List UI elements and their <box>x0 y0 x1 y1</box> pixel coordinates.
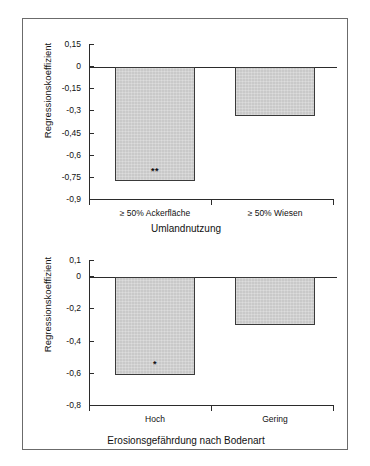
x-tick-label-top-1: ≥ 50% Wiesen <box>248 208 303 218</box>
y-tick-label: 0 <box>76 270 81 283</box>
figure-root: Regressionskoeffizient 0,15 0 -0,15 <box>0 0 370 466</box>
y-tick-mark <box>89 88 94 89</box>
chart-panel-top: Regressionskoeffizient 0,15 0 -0,15 <box>23 19 349 241</box>
y-tick-label: -0,15 <box>62 82 81 95</box>
y-tick-mark <box>89 177 94 178</box>
x-tick-mark-right-top <box>333 200 334 205</box>
y-tick-label: -0,9 <box>66 193 81 206</box>
y-tick-label: -0,4 <box>66 335 81 348</box>
figure-frame: Regressionskoeffizient 0,15 0 -0,15 <box>22 18 348 450</box>
x-tick-label-top-0: ≥ 50% Ackerfläche <box>120 208 190 218</box>
y-tick-label: -0,6 <box>66 149 81 162</box>
x-tick-mark-left-bottom <box>89 406 90 411</box>
y-tick-label: 0 <box>76 60 81 73</box>
y-axis-line-bottom <box>89 261 90 406</box>
x-tick-mark-mid-bottom <box>211 406 212 411</box>
x-axis-label-top: Umlandnutzung <box>23 223 349 234</box>
x-tick-label-bottom-1: Gering <box>262 414 288 424</box>
y-tick-label: -0,45 <box>62 127 81 140</box>
y-tick-label: -0,75 <box>62 171 81 184</box>
x-tick-mark-left-top <box>89 200 90 205</box>
y-tick-mark <box>89 155 94 156</box>
significance-marker: * <box>153 360 157 369</box>
y-axis-label-bottom: Regressionskoeffizient <box>42 237 53 373</box>
x-tick-label-bottom-0: Hoch <box>145 414 165 424</box>
x-axis-label-bottom: Erosionsgefährdung nach Bodenart <box>23 435 349 446</box>
y-tick-label: -0,6 <box>66 367 81 380</box>
y-tick-label: 0,15 <box>64 38 81 51</box>
y-tick-label: 0,1 <box>69 254 81 267</box>
y-tick-label: -0,3 <box>66 104 81 117</box>
y-tick-mark <box>89 110 94 111</box>
y-tick-mark <box>89 373 94 374</box>
bar-bottom-hoch[interactable]: * <box>115 277 195 375</box>
plot-area-top: 0,15 0 -0,15 -0,3 -0,45 <box>89 45 334 200</box>
y-tick-mark <box>89 260 94 261</box>
y-tick-mark <box>89 133 94 134</box>
chart-panel-bottom: Regressionskoeffizient 0,1 0 -0,2 <box>23 241 349 451</box>
y-tick-label: -0,8 <box>66 399 81 412</box>
y-tick-mark <box>89 341 94 342</box>
x-tick-mark-mid-top <box>211 200 212 205</box>
bar-top-ackerflaeche[interactable]: ** <box>115 67 195 181</box>
x-tick-mark-right-bottom <box>333 406 334 411</box>
y-tick-mark <box>89 308 94 309</box>
bar-bottom-gering[interactable] <box>235 277 315 325</box>
y-axis-label-top: Regressionskoeffizient <box>42 21 53 161</box>
y-tick-mark <box>89 44 94 45</box>
bar-top-wiesen[interactable] <box>235 67 315 116</box>
y-tick-label: -0,2 <box>66 302 81 315</box>
significance-marker: ** <box>151 167 159 176</box>
plot-area-bottom: 0,1 0 -0,2 -0,4 -0,6 <box>89 261 334 406</box>
